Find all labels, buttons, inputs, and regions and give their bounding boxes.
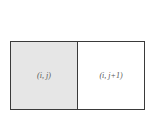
cell-label: (i, j) — [37, 71, 51, 80]
cell-i-j-plus-1: (i, j+1) — [78, 42, 144, 109]
cell-grid: (i, j) (i, j+1) — [10, 41, 145, 110]
cell-i-j: (i, j) — [11, 42, 78, 109]
cell-label: (i, j+1) — [99, 71, 122, 80]
